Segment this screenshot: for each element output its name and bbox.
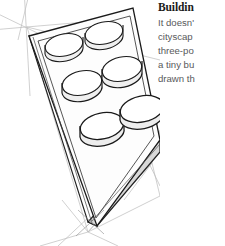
- construction-line-diag-b: [18, 0, 30, 40]
- article-heading: Buildin: [158, 1, 225, 14]
- article-body-line-5: drawn th: [158, 72, 225, 86]
- article-body-line-1: It doesn': [158, 16, 225, 30]
- article-body-line-4: a tiny bu: [158, 58, 225, 72]
- sketch-canvas: [0, 0, 160, 246]
- lego-brick-perspective-sketch: [0, 0, 160, 246]
- article-body-line-2: cityscap: [158, 30, 225, 44]
- article-text-column: Buildin It doesn' cityscap three-po a ti…: [155, 0, 225, 246]
- article-body-line-3: three-po: [158, 44, 225, 58]
- construction-line-lower-fan-d: [88, 232, 118, 246]
- construction-line-vertical-left: [24, 0, 30, 96]
- illustration-page: Buildin It doesn' cityscap three-po a ti…: [0, 0, 225, 246]
- construction-line-lower-fan-b: [40, 232, 88, 246]
